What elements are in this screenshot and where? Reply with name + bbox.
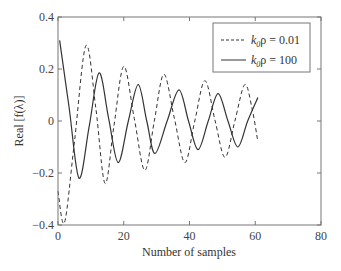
x-tick-label: 40 (184, 229, 196, 243)
x-tick-label: 0 (55, 229, 61, 243)
y-tick-label: −0.4 (32, 218, 54, 232)
line-chart: 020406080 0.40.20−0.2−0.4 Number of samp… (0, 0, 341, 271)
y-tick-label: 0 (48, 114, 54, 128)
y-tick-label: −0.2 (32, 166, 54, 180)
x-axis-label: Number of samples (142, 245, 236, 259)
y-tick-label: 0.2 (39, 62, 54, 76)
x-tick-label: 20 (118, 229, 130, 243)
y-tick-label: 0.4 (39, 10, 54, 24)
legend: k0ρ = 0.01 k0ρ = 100 (213, 23, 310, 72)
y-axis-label: Real [f(λ)] (12, 96, 26, 147)
x-tick-label: 80 (315, 229, 327, 243)
x-tick-label: 60 (249, 229, 261, 243)
